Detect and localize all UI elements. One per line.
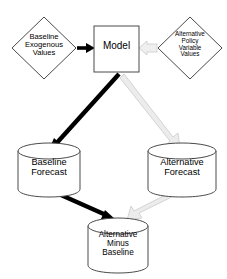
node-alternative-minus-baseline[interactable]: [88, 218, 148, 273]
diagram-canvas: [0, 0, 227, 279]
edge-model-to-alternative-forecast: [120, 74, 180, 148]
node-alternative-forecast[interactable]: [148, 143, 216, 197]
edge-policy-to-model: [139, 41, 157, 55]
edge-model-to-baseline-forecast: [47, 74, 119, 154]
node-baseline-exogenous-values[interactable]: [12, 17, 76, 79]
node-model[interactable]: [94, 26, 139, 72]
node-alternative-policy-variable-values[interactable]: [158, 17, 222, 79]
flow-diagram: Baseline Exogenous Values Alternative Po…: [0, 0, 227, 279]
edge-exogenous-to-model: [77, 43, 95, 53]
node-baseline-forecast[interactable]: [18, 143, 80, 197]
